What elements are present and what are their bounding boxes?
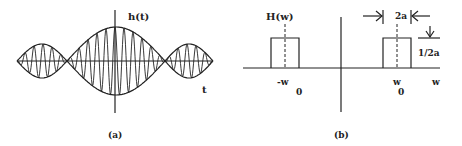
w-axis-label: w [431, 77, 440, 87]
right-rect-pulse [383, 38, 411, 68]
pos-w0-subscript: 0 [398, 87, 404, 97]
caption-b: (b) [334, 130, 349, 140]
height-label: 1/2a [418, 48, 440, 58]
panel-a [17, 10, 213, 113]
neg-w0-label: -w [277, 77, 289, 87]
neg-w0-subscript: 0 [296, 87, 302, 97]
t-axis-label: t [202, 84, 207, 95]
h-t-label: h(t) [128, 11, 149, 22]
figure-canvas: h(t) t (a) H(w) 2a 1/2a -w 0 w [0, 0, 462, 146]
H-w-label: H(w) [266, 11, 294, 22]
caption-a: (a) [108, 130, 122, 140]
left-rect-pulse [271, 38, 299, 68]
pos-w0-label: w [392, 77, 401, 87]
width-label: 2a [395, 11, 407, 21]
panel-b [243, 10, 440, 112]
figure: h(t) t (a) H(w) 2a 1/2a -w 0 w [0, 0, 462, 146]
